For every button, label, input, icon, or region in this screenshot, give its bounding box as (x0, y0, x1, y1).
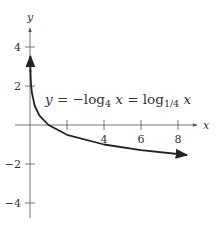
y-axis-label: y (26, 11, 34, 24)
x-tick-label-8: 8 (175, 133, 182, 146)
y-tick-label-2: 2 (14, 80, 21, 93)
equation-label: y = −log4 x = log1/4 x (44, 91, 191, 109)
x-axis-label: x (203, 119, 210, 132)
chart: 4 6 8 4 2 −2 −4 x y y = −log4 x = log1/4… (0, 0, 220, 227)
y-tick-label-4: 4 (14, 41, 21, 54)
x-tick-label-6: 6 (138, 133, 145, 146)
y-tick-label-neg4: −4 (5, 197, 21, 210)
curve-neg-log4 (30, 70, 187, 155)
y-tick-label-neg2: −2 (5, 158, 21, 171)
